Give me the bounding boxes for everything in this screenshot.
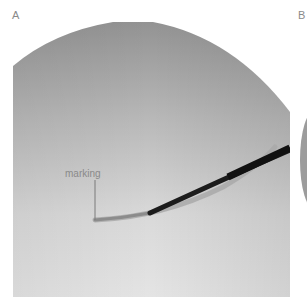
panel-label-b: B bbox=[298, 9, 305, 21]
panel-label-a: A bbox=[12, 9, 19, 21]
endoscopic-image-panel-b-edge bbox=[300, 110, 307, 210]
endoscopic-view bbox=[13, 22, 290, 297]
marking-annotation: marking bbox=[65, 168, 101, 179]
endoscopic-image-panel-a: marking bbox=[13, 22, 290, 297]
